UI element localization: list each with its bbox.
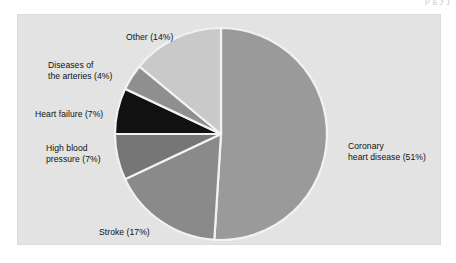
pie-label-coronary-heart-disease: Coronary heart disease (51%) <box>348 141 426 163</box>
pie-label-heart-failure: Heart failure (7%) <box>35 109 103 120</box>
pie-label-stroke: Stroke (17%) <box>99 227 150 238</box>
pie-label-high-blood-pressure: High blood pressure (7%) <box>46 143 101 165</box>
pie-label-diseases-of-the-arteries: Diseases of the arteries (4%) <box>48 60 112 82</box>
figure-panel: Coronary heart disease (51%) Stroke (17%… <box>17 14 441 245</box>
pie-chart: Coronary heart disease (51%) Stroke (17%… <box>18 15 442 246</box>
pie-label-other: Other (14%) <box>126 32 173 43</box>
pie-slice <box>214 28 327 240</box>
pie-slice-group <box>115 28 327 240</box>
pie-chart-svg <box>18 15 442 246</box>
cropped-text-line-above-figure: p g y j <box>0 0 456 6</box>
